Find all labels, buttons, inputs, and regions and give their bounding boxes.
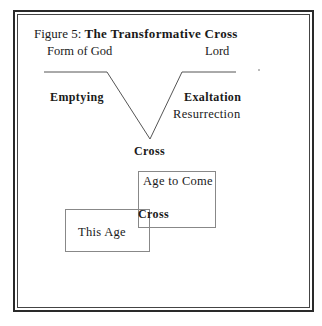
label-cross-vertex: Cross: [134, 145, 165, 157]
label-cross-overlap: Cross: [138, 208, 169, 220]
label-resurrection: Resurrection: [173, 108, 240, 121]
v-diagram-lines: [0, 0, 322, 326]
exaltation-line: [150, 72, 182, 139]
label-age-to-come: Age to Come: [143, 175, 213, 188]
label-emptying: Emptying: [50, 91, 104, 103]
emptying-line: [107, 72, 150, 139]
label-exaltation: Exaltation: [184, 91, 241, 103]
stray-dot: [258, 69, 260, 71]
label-this-age: This Age: [78, 226, 126, 239]
